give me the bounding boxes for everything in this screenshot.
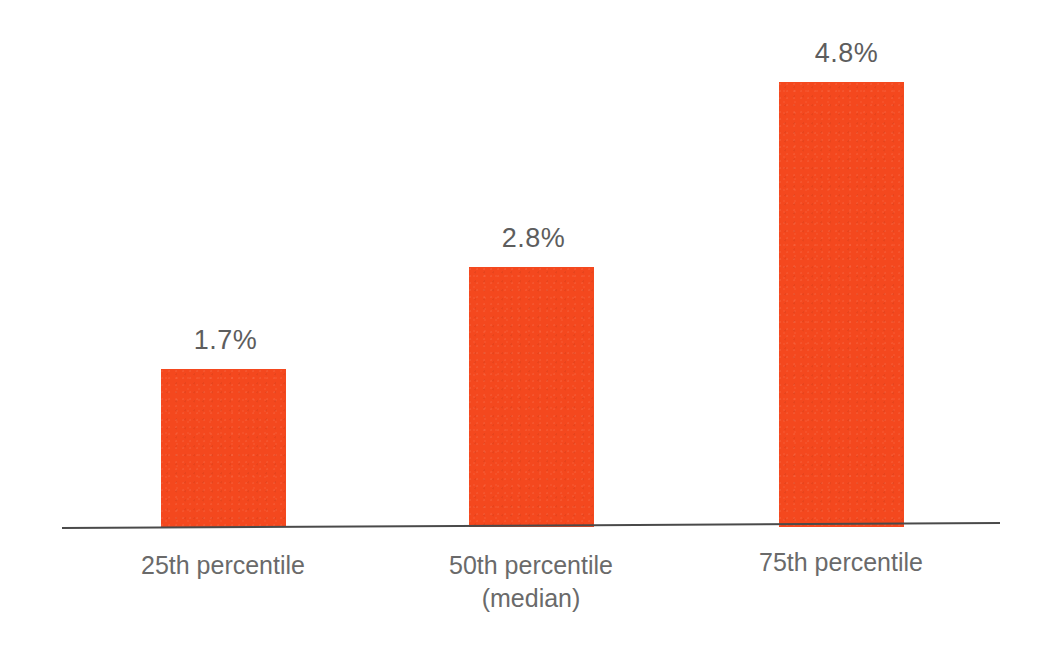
plot-area: 1.7% 2.8% 4.8% 25th percentile 50th perc…: [0, 0, 1059, 646]
category-label-50th-percentile: 50th percentile (median): [411, 549, 651, 615]
bar-75th-percentile[interactable]: [779, 82, 904, 527]
value-label-50th-percentile: 2.8%: [471, 223, 596, 254]
value-label-75th-percentile: 4.8%: [784, 38, 909, 69]
category-label-75th-percentile: 75th percentile: [721, 546, 961, 579]
bar-25th-percentile[interactable]: [161, 369, 286, 527]
category-label-25th-percentile: 25th percentile: [103, 549, 343, 582]
bar-50th-percentile[interactable]: [469, 267, 594, 527]
bar-chart: 1.7% 2.8% 4.8% 25th percentile 50th perc…: [0, 0, 1059, 646]
value-label-25th-percentile: 1.7%: [163, 325, 288, 356]
